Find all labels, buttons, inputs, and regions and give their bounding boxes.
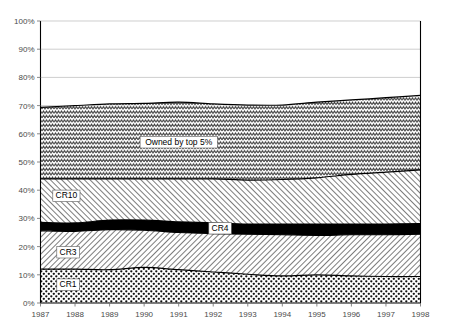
y-tick-label: 0%: [23, 299, 35, 308]
y-tick-label: 60%: [18, 130, 34, 139]
series-annotation: CR10: [53, 190, 80, 202]
y-tick-label: 30%: [18, 214, 34, 223]
x-tick-label: 1992: [204, 310, 222, 319]
y-tick-label: 100%: [14, 17, 34, 26]
x-tick-label: 1996: [343, 310, 361, 319]
y-tick-label: 70%: [18, 102, 34, 111]
stacked-areas: [41, 95, 421, 303]
x-tick-label: 1997: [377, 310, 395, 319]
x-tick-label: 1991: [170, 310, 188, 319]
annotation-label: Owned by top 5%: [145, 137, 213, 147]
series-annotation: CR1: [57, 279, 80, 291]
y-axis-ticks: 0%10%20%30%40%50%60%70%80%90%100%: [14, 17, 40, 308]
stacked-area-chart: 0%10%20%30%40%50%60%70%80%90%100% 198719…: [0, 0, 459, 334]
chart-canvas: 0%10%20%30%40%50%60%70%80%90%100% 198719…: [0, 0, 459, 334]
annotation-label: CR10: [56, 190, 78, 200]
x-tick-label: 1995: [308, 310, 326, 319]
y-tick-label: 20%: [18, 243, 34, 252]
annotation-label: CR3: [60, 247, 77, 257]
x-tick-label: 1993: [239, 310, 257, 319]
x-tick-label: 1988: [66, 310, 84, 319]
x-tick-label: 1998: [412, 310, 430, 319]
series-annotation: Owned by top 5%: [140, 137, 217, 149]
x-tick-label: 1989: [101, 310, 119, 319]
x-tick-label: 1987: [32, 310, 50, 319]
series-annotation: CR4: [209, 223, 232, 235]
annotation-label: CR1: [60, 279, 77, 289]
x-tick-label: 1990: [135, 310, 153, 319]
annotation-label: CR4: [212, 223, 229, 233]
y-tick-label: 90%: [18, 45, 34, 54]
series-annotation: CR3: [57, 247, 80, 259]
x-tick-label: 1994: [273, 310, 291, 319]
y-tick-label: 50%: [18, 158, 34, 167]
y-tick-label: 40%: [18, 186, 34, 195]
x-axis-ticks: 1987198819891990199119921993199419951996…: [32, 303, 430, 319]
area-band-owned-by-top-5-: [41, 95, 421, 180]
y-tick-label: 10%: [18, 271, 34, 280]
y-tick-label: 80%: [18, 73, 34, 82]
